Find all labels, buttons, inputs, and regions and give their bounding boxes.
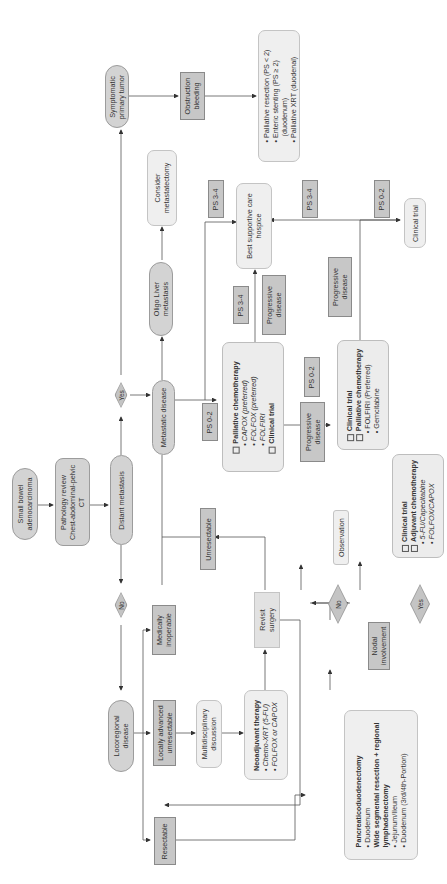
surgery-options-box: Pancreaticoduodenectomy • Duodenum Wide … xyxy=(344,710,418,860)
checkbox-icon xyxy=(402,545,409,552)
start-node-small-bowel-adenocarcinoma: Small boweladenocarcinoma xyxy=(12,468,38,540)
palliative-options-box: • Palliative resection (PS < 2) • Enteri… xyxy=(258,30,300,162)
locoregional-disease-node: Locoregionaldisease xyxy=(108,700,134,772)
decision-no-metastasis: No xyxy=(112,587,130,623)
consider-metastatectomy-node: Considermetastatectomy xyxy=(147,150,177,226)
ps-3-4-label-b: PS 3-4 xyxy=(233,286,249,324)
checkbox-icon xyxy=(268,446,275,453)
best-supportive-care-node: Best supportive carehospice xyxy=(236,183,272,269)
locally-advanced-unresectable-node: Locally advancedunresectable xyxy=(153,700,176,766)
decision-yes-metastasis: Yes xyxy=(112,377,130,413)
checkbox-icon xyxy=(411,545,418,552)
symptomatic-primary-tumor-node: Symptomaticprimary tumor xyxy=(105,65,129,128)
decision-yes-nodal: Yes xyxy=(410,584,430,624)
progressive-disease-label-a: Progressivedisease xyxy=(262,275,286,335)
checkbox-icon xyxy=(232,446,239,453)
metastatic-disease-node: Metastatic disease xyxy=(152,380,175,455)
first-line-palliative-chemo-box: Palliative chemotherapy • CAPOX (preferr… xyxy=(222,342,284,472)
adjuvant-therapy-box: Clinical trial Adjuvant chemotherapy • 5… xyxy=(392,454,444,558)
checkbox-icon xyxy=(347,434,354,441)
distant-metastasis-node: Distant metastasis xyxy=(110,455,133,545)
decision-no-nodal: No xyxy=(328,584,348,624)
ps-3-4-label-a: PS 3-4 xyxy=(208,180,224,218)
resectable-node: Resectable xyxy=(154,817,176,865)
neoadjuvant-therapy-box: Neoadjuvant therapy • Chemo-XRT (5-FU) •… xyxy=(244,690,288,780)
multidisciplinary-discussion-node: Multidisciplinarydiscussion xyxy=(196,700,222,768)
checkbox-icon xyxy=(356,434,363,441)
flowchart: Small boweladenocarcinoma Pathology revi… xyxy=(0,0,447,884)
observation-node: Observation xyxy=(333,510,349,565)
nodal-involvement-node: Nodalinvolvement xyxy=(368,622,390,670)
workup-node: Pathology reviewChest-abdominal-pelvicCT xyxy=(55,458,90,546)
medically-inoperable-node: Medicallyinoperable xyxy=(152,605,176,655)
unresectable-node: Unresectable xyxy=(200,508,216,570)
obstruction-bleeding-node: Obstructionbleeding xyxy=(180,72,205,120)
ps-0-2-label-b: PS 0-2 xyxy=(304,357,320,397)
ps-0-2-label-c: PS 0-2 xyxy=(374,180,390,218)
revisit-surgery-node: Revisitsurgery xyxy=(254,592,280,648)
ps-0-2-label-a: PS 0-2 xyxy=(202,403,218,441)
oligo-liver-metastasis-node: Oligo Livermetastasis xyxy=(149,262,173,336)
ps-3-4-label-c: PS 3-4 xyxy=(302,180,318,218)
clinical-trial-end-node: Clinical trial xyxy=(404,198,426,248)
progressive-disease-label-b: Progressivedisease xyxy=(300,402,325,462)
progressive-disease-label-c: Progressivedisease xyxy=(328,257,352,317)
second-line-palliative-chemo-box: Clinical trial Palliative chemotherapy •… xyxy=(337,340,389,450)
